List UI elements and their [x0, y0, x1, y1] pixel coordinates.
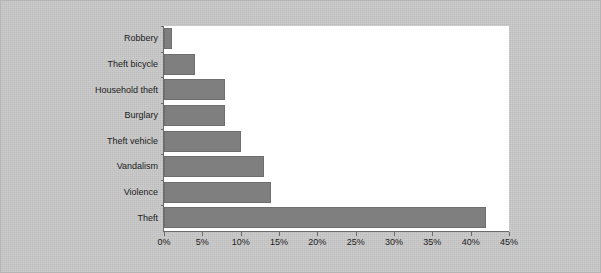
x-axis-tick — [471, 232, 472, 236]
bar — [164, 28, 172, 49]
bar — [164, 156, 264, 177]
bar — [164, 105, 225, 126]
x-axis-tick-label: 0% — [157, 238, 170, 247]
x-axis-tick — [279, 232, 280, 236]
bar-row: Violence — [164, 180, 509, 206]
bar-row: Theft vehicle — [164, 129, 509, 155]
x-axis-tick-label: 45% — [500, 238, 518, 247]
bar — [164, 79, 225, 100]
category-label: Robbery — [124, 34, 158, 43]
x-axis-tick-label: 20% — [308, 238, 326, 247]
x-axis-tick-label: 25% — [347, 238, 365, 247]
x-axis-tick-label: 5% — [196, 238, 209, 247]
x-axis-tick-label: 15% — [270, 238, 288, 247]
x-axis-tick-label: 40% — [462, 238, 480, 247]
category-label: Theft bicycle — [107, 60, 158, 69]
category-label: Vandalism — [117, 162, 158, 171]
x-axis-tick-label: 30% — [385, 238, 403, 247]
bar-row: Theft — [164, 205, 509, 231]
category-label: Household theft — [95, 86, 158, 95]
category-label: Burglary — [124, 111, 158, 120]
x-axis-tick — [317, 232, 318, 236]
bar-row: Burglary — [164, 103, 509, 129]
category-label: Theft vehicle — [107, 137, 158, 146]
bar — [164, 182, 271, 203]
x-axis-tick — [241, 232, 242, 236]
x-axis-tick — [432, 232, 433, 236]
bar-row: Household theft — [164, 77, 509, 103]
category-label: Theft — [137, 214, 158, 223]
x-axis-tick — [509, 232, 510, 236]
x-axis-line — [163, 231, 509, 232]
bar — [164, 131, 241, 152]
y-axis-line — [163, 26, 164, 232]
x-axis-tick — [394, 232, 395, 236]
x-axis-tick — [202, 232, 203, 236]
bar-row: Theft bicycle — [164, 52, 509, 78]
x-axis-tick-label: 10% — [232, 238, 250, 247]
x-axis-tick — [164, 232, 165, 236]
bar — [164, 207, 486, 228]
bar-row: Robbery — [164, 26, 509, 52]
x-axis-tick-label: 35% — [423, 238, 441, 247]
category-label: Violence — [124, 188, 158, 197]
bar-chart-figure: RobberyTheft bicycleHousehold theftBurgl… — [0, 0, 601, 273]
bar-row: Vandalism — [164, 154, 509, 180]
bar — [164, 54, 195, 75]
x-axis-tick — [356, 232, 357, 236]
